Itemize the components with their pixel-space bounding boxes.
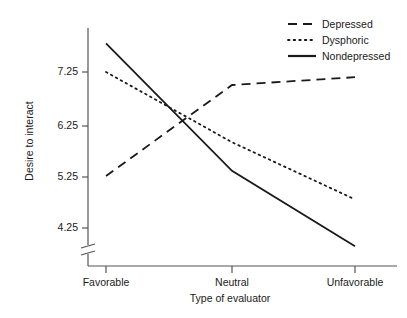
y-tick-label-3: 4.25 [34, 221, 78, 233]
x-tick-label-neutral: Neutral [182, 276, 282, 288]
series-line-depressed [106, 77, 355, 176]
y-tick-label-1: 6.25 [34, 119, 78, 131]
plot-area [0, 0, 407, 318]
legend-item-nondepressed: Nondepressed [322, 50, 390, 62]
y-tick-label-2: 5.25 [34, 170, 78, 182]
series-line-dysphoric [106, 72, 355, 199]
x-tick-label-favorable: Favorable [56, 276, 156, 288]
y-axis-title: Desire to interact [23, 76, 35, 206]
x-tick-label-unfavorable: Unfavorable [303, 276, 407, 288]
series-line-nondepressed [106, 43, 355, 246]
y-tick-label-0: 7.25 [34, 65, 78, 77]
legend-item-dysphoric: Dysphoric [322, 34, 369, 46]
line-chart: 7.25 6.25 5.25 4.25 Favorable Neutral Un… [0, 0, 407, 318]
legend-item-depressed: Depressed [322, 18, 373, 30]
x-axis-title: Type of evaluator [90, 292, 370, 304]
